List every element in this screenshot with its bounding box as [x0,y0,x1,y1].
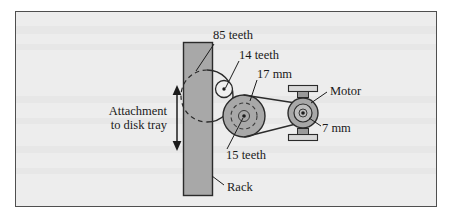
rack-bar [184,43,213,196]
figure-container: 85 teeth 14 teeth 17 mm 15 teeth Motor 7… [0,0,456,220]
label-attachment-line1: Attachment [109,104,168,118]
label-gear-85: 85 teeth [213,28,254,42]
motor-bracket-top [289,86,318,92]
motor-shaft-collar-top [298,92,309,98]
label-pulley-17mm: 17 mm [257,67,292,81]
label-motor: Motor [330,84,362,98]
label-gear-14: 14 teeth [239,48,280,62]
motor-bracket-bottom [289,135,318,141]
label-rack: Rack [227,180,253,194]
pulley-17mm-hub [242,114,246,118]
motor-shaft-collar-bottom [298,129,309,135]
label-pulley-7mm: 7 mm [322,121,351,135]
label-attachment-line2: to disk tray [111,118,168,132]
label-gear-15: 15 teeth [226,148,267,162]
mechanism-diagram: 85 teeth 14 teeth 17 mm 15 teeth Motor 7… [0,0,456,220]
motor-hub [301,111,305,115]
